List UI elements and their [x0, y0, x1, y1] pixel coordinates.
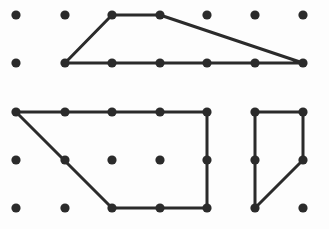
lattice-dot	[298, 107, 307, 116]
lattice-dot	[11, 58, 20, 67]
figure-background	[0, 0, 329, 229]
lattice-dot	[202, 10, 211, 19]
lattice-dot	[155, 107, 164, 116]
lattice-dot	[60, 58, 69, 67]
lattice-dot	[298, 10, 307, 19]
lattice-dot	[60, 10, 69, 19]
lattice-dot	[107, 155, 116, 164]
lattice-dot	[60, 155, 69, 164]
lattice-dot	[202, 155, 211, 164]
lattice-dot	[107, 203, 116, 212]
lattice-dot	[60, 107, 69, 116]
lattice-dot	[155, 58, 164, 67]
lattice-dot	[107, 107, 116, 116]
lattice-dot	[11, 155, 20, 164]
lattice-dot	[250, 155, 259, 164]
lattice-dot	[298, 58, 307, 67]
geoboard-canvas	[0, 0, 329, 229]
lattice-dot	[155, 155, 164, 164]
lattice-dot	[202, 107, 211, 116]
lattice-dot	[250, 58, 259, 67]
lattice-dot	[11, 10, 20, 19]
geoboard-figure	[0, 0, 329, 229]
lattice-dot	[60, 203, 69, 212]
lattice-dot	[155, 10, 164, 19]
lattice-dot	[107, 58, 116, 67]
lattice-dot	[250, 107, 259, 116]
lattice-dot	[250, 10, 259, 19]
lattice-dot	[250, 203, 259, 212]
lattice-dot	[298, 155, 307, 164]
lattice-dot	[202, 203, 211, 212]
lattice-dot	[155, 203, 164, 212]
lattice-dot	[107, 10, 116, 19]
lattice-dot	[298, 203, 307, 212]
lattice-dot	[11, 107, 20, 116]
lattice-dot	[202, 58, 211, 67]
lattice-dot	[11, 203, 20, 212]
